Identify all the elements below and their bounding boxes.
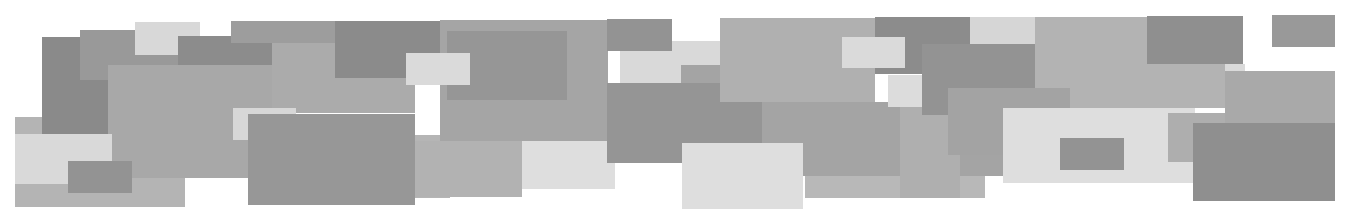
gray-rectangle xyxy=(68,161,132,193)
gray-rectangle xyxy=(842,37,905,68)
gray-rectangle xyxy=(682,143,803,209)
gray-rectangle xyxy=(522,141,615,189)
gray-rectangle xyxy=(248,114,415,205)
gray-rectangle xyxy=(607,19,672,51)
gray-rectangle xyxy=(1272,15,1335,47)
gray-rectangle xyxy=(1060,138,1124,170)
gray-rectangle xyxy=(406,53,470,85)
gray-rectangle xyxy=(1193,123,1335,201)
abstract-rectangle-composition xyxy=(0,0,1354,210)
gray-rectangle xyxy=(1147,16,1243,64)
gray-rectangle xyxy=(970,17,1035,44)
gray-rectangle xyxy=(415,141,522,197)
gray-rectangle xyxy=(1225,71,1335,123)
gray-rectangle xyxy=(888,75,922,107)
